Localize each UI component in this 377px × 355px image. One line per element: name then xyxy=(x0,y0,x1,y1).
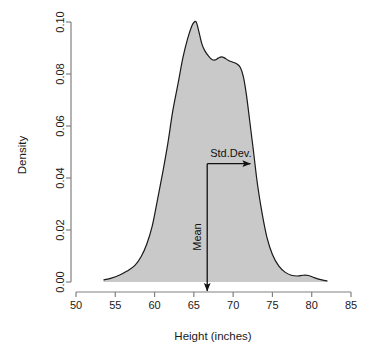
y-axis-tick-label: 0.10 xyxy=(54,11,66,32)
x-axis-tick-label: 65 xyxy=(188,299,200,311)
y-axis-tick-label: 0.08 xyxy=(54,63,66,84)
y-axis-tick-label: 0.06 xyxy=(54,115,66,136)
x-axis-tick-label: 50 xyxy=(70,299,82,311)
y-axis-tick-label: 0.04 xyxy=(54,167,66,188)
y-axis-tick-label: 0.00 xyxy=(54,271,66,292)
y-axis-tick-label: 0.02 xyxy=(54,219,66,240)
stddev-label: Std.Dev. xyxy=(210,147,251,159)
plot-canvas: 0.000.020.040.060.080.10 505560657075808… xyxy=(0,0,377,355)
x-axis-tick-label: 55 xyxy=(109,299,121,311)
x-axis-tick-label: 85 xyxy=(345,299,357,311)
x-axis-title: Height (inches) xyxy=(174,330,252,342)
y-axis: 0.000.020.040.060.080.10 xyxy=(54,11,71,292)
x-axis-tick-label: 60 xyxy=(148,299,160,311)
x-axis: 5055606570758085 xyxy=(70,292,357,311)
density-plot-figure: 0.000.020.040.060.080.10 505560657075808… xyxy=(0,0,377,355)
x-axis-tick-label: 70 xyxy=(227,299,239,311)
x-axis-tick-label: 75 xyxy=(266,299,278,311)
y-axis-title: Density xyxy=(16,136,28,175)
mean-label: Mean xyxy=(191,223,203,251)
x-axis-tick-label: 80 xyxy=(306,299,318,311)
